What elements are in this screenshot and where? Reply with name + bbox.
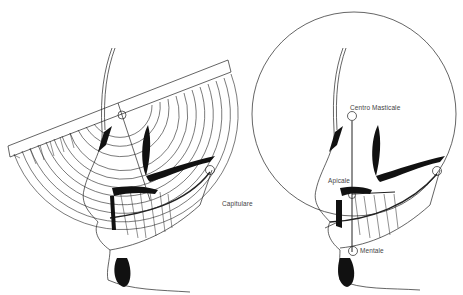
label-centro-masticale: Centro Masticale <box>350 104 400 111</box>
left-panel <box>8 48 238 292</box>
left-panel-fills <box>98 125 215 287</box>
centro-masticale-point <box>348 112 357 121</box>
mentale-point <box>349 247 358 256</box>
diagram-canvas <box>0 0 463 295</box>
label-capitulare: Capitulare <box>222 200 253 207</box>
right-panel-fills <box>329 125 445 287</box>
label-apicale: Apicale <box>328 177 350 184</box>
right-panel <box>252 12 456 290</box>
jaw-arc <box>110 172 210 218</box>
protractor <box>8 60 238 230</box>
label-mentale: Mentale <box>360 247 384 254</box>
